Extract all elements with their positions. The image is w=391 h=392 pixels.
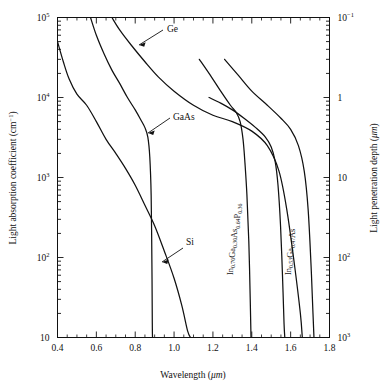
y-left-tick-label: 10 [40, 333, 50, 343]
x-tick-label: 1.4 [246, 343, 258, 353]
curve-label-gaas: GaAs [173, 112, 195, 122]
curve-label-si: Si [186, 237, 194, 247]
x-axis-title: Wavelength (μm) [160, 370, 226, 381]
x-tick-label: 0.4 [52, 343, 64, 353]
y-right-tick-label: 1 [338, 93, 343, 103]
y-axis-left-title: Light absorption coefficient (cm−1) [7, 111, 20, 244]
x-tick-label: 1.8 [324, 343, 336, 353]
x-tick-label: 0.6 [90, 343, 102, 353]
y-right-tick-label: 10 [338, 173, 348, 183]
absorption-coefficient-chart: 10510410310210 10−1110102103 0.40.60.81.… [0, 0, 391, 392]
x-tick-label: 1.0 [168, 343, 180, 353]
x-tick-label: 1.2 [207, 343, 219, 353]
chart-background [0, 0, 391, 392]
curve-label-ge: Ge [167, 24, 178, 34]
figure-container: 10510410310210 10−1110102103 0.40.60.81.… [0, 0, 391, 392]
x-tick-label: 0.8 [129, 343, 141, 353]
y-axis-right-title: Light penetration depth (μm) [369, 123, 380, 233]
x-tick-label: 1.6 [285, 343, 297, 353]
